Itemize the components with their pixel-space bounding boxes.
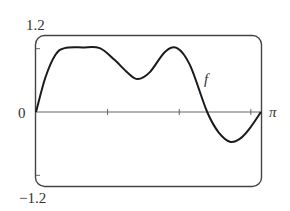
- plot-frame: [36, 36, 262, 187]
- y-zero-label: 0: [18, 105, 26, 121]
- function-plot: 1.2 0 −1.2 π f: [0, 0, 290, 211]
- curve-label-f: f: [204, 71, 210, 87]
- x-end-label-pi: π: [269, 104, 277, 120]
- y-top-label: 1.2: [26, 17, 45, 33]
- curve-f: [36, 47, 261, 142]
- y-bottom-label: −1.2: [19, 190, 46, 206]
